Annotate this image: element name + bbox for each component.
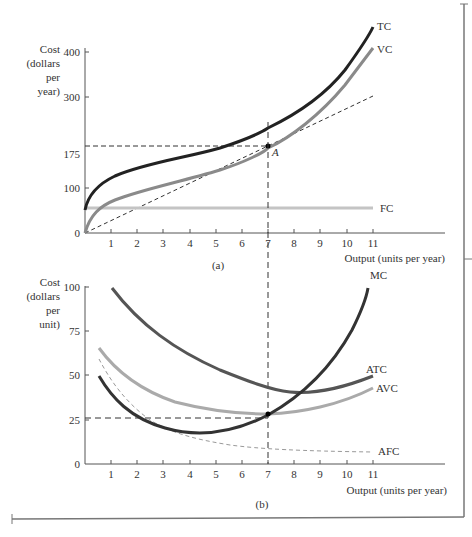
y-axis-label-a-line4: year) [37,85,60,98]
avc-curve [99,348,373,414]
svg-text:10: 10 [342,237,354,249]
svg-text:7: 7 [265,468,271,480]
svg-text:10: 10 [342,468,354,480]
svg-text:4: 4 [187,237,193,249]
mc-label: MC [370,269,387,281]
tc-curve [85,27,373,210]
fc-label: FC [380,202,393,214]
y-axis-label-a-line2: (dollars [26,57,60,70]
svg-text:1: 1 [108,468,114,480]
x-tick-labels-a: 1 2 3 4 5 6 7 8 9 10 11 [108,237,378,249]
tc-label: TC [377,20,391,32]
svg-text:2: 2 [134,468,140,480]
panel-b-caption: (b) [256,498,269,511]
panel-a: Cost (dollars per year) 400 300 175 100 … [26,20,445,272]
cost-curves-figure: Cost (dollars per year) 400 300 175 100 … [0,0,472,537]
y-ticks-b [85,287,89,420]
svg-text:3: 3 [160,468,166,480]
svg-text:6: 6 [239,468,245,480]
mc-avc-intersection-marker [266,412,271,417]
vc-label: VC [377,43,392,55]
vc-curve [85,48,373,233]
svg-text:11: 11 [368,237,379,249]
svg-text:11: 11 [368,468,379,480]
x-ticks-a [111,229,373,233]
svg-text:3: 3 [160,237,166,249]
page-border-bottom [12,517,464,519]
y-tick-label: 75 [69,325,81,337]
x-ticks-b [111,460,373,464]
point-a-label: A [271,146,279,158]
origin-label-a: 0 [75,227,81,239]
svg-text:6: 6 [239,237,245,249]
svg-text:8: 8 [291,468,297,480]
svg-text:5: 5 [213,468,219,480]
panel-b: Cost (dollars per unit) 100 75 50 25 0 1… [26,269,447,511]
y-axis-label-a-line1: Cost [40,43,60,55]
svg-text:2: 2 [134,237,140,249]
avc-label: AVC [376,382,398,394]
y-axis-label-b-line1: Cost [40,276,60,288]
afc-label: AFC [378,445,399,457]
x-tick-labels-b: 1 2 3 4 5 6 7 8 9 10 11 [108,468,378,480]
y-tick-label: 300 [64,91,81,103]
ray-from-origin [85,96,373,233]
atc-curve [112,288,373,393]
svg-text:1: 1 [108,237,114,249]
atc-label: ATC [366,363,387,375]
y-tick-label: 175 [64,148,81,160]
y-tick-label: 100 [64,182,81,194]
x-axis-label-a: Output (units per year) [345,252,446,265]
svg-text:5: 5 [213,237,219,249]
y-axis-label-b-line2: (dollars [26,290,60,303]
y-axis-label-b-line4: unit) [39,318,60,331]
y-tick-label: 400 [64,46,81,58]
svg-text:4: 4 [187,468,193,480]
y-axis-label-a-line3: per [46,71,60,83]
y-tick-label: 25 [69,414,81,426]
y-tick-label: 50 [69,369,81,381]
svg-text:8: 8 [291,237,297,249]
svg-text:9: 9 [317,468,323,480]
origin-label-b: 0 [75,458,81,470]
y-tick-label: 100 [64,281,81,293]
x-axis-label-b: Output (units per year) [347,484,448,497]
svg-text:9: 9 [317,237,323,249]
y-axis-label-b-line3: per [46,304,60,316]
panel-a-caption: (a) [212,259,225,272]
